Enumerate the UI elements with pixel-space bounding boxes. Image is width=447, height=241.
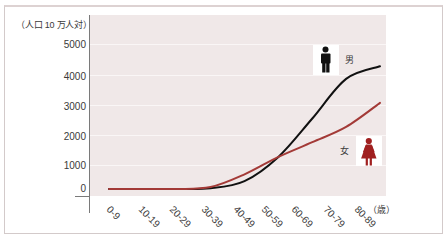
chart-canvas: [0, 0, 447, 241]
legend-label-male: 男: [345, 55, 354, 65]
female-icon: [361, 138, 376, 166]
series-line-male: [109, 66, 380, 189]
legend-label-female: 女: [340, 146, 349, 156]
male-icon: [321, 47, 331, 73]
